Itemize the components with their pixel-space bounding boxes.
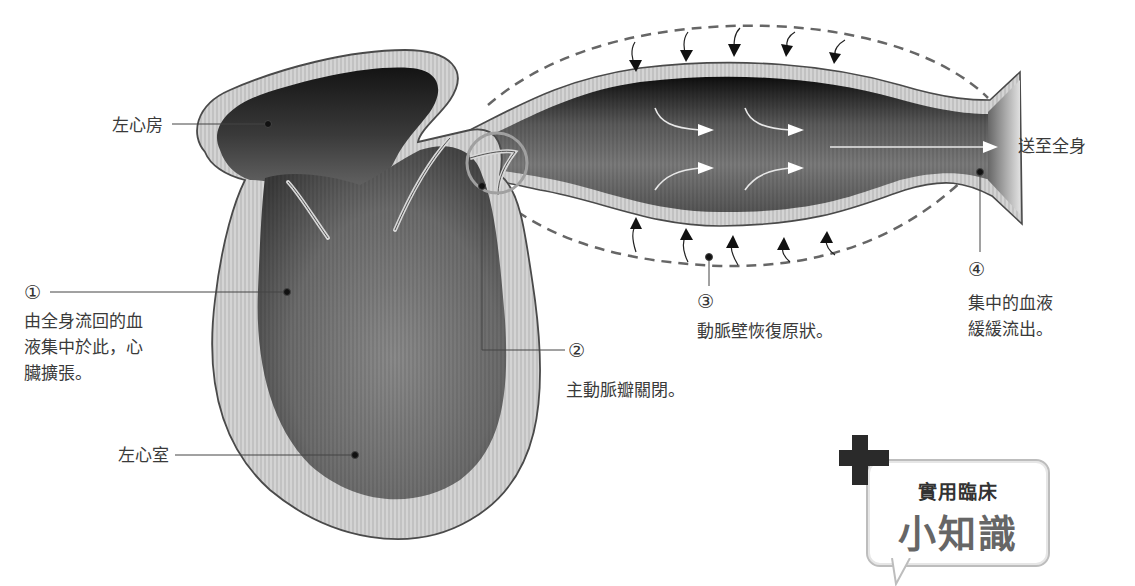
step-2-number: ②	[568, 339, 585, 361]
left-atrium-label: 左心房	[112, 112, 163, 138]
callout-big-title: 小知識	[868, 503, 1048, 558]
callout-bubble: 實用臨床 小知識	[866, 459, 1050, 567]
step-1-text: 由全身流回的血 液集中於此，心 臟擴張。	[24, 308, 143, 386]
callout-tail	[890, 558, 914, 586]
step-3-text: 動脈壁恢復原狀。	[697, 318, 833, 344]
callout-small-title: 實用臨床	[868, 477, 1048, 504]
step-4-text: 集中的血液 緩緩流出。	[968, 290, 1053, 342]
step-4-number: ④	[968, 258, 985, 280]
plus-cross-icon-bar	[839, 450, 889, 466]
step-2-text: 主動脈瓣關閉。	[566, 377, 685, 403]
left-ventricle-label: 左心室	[118, 442, 169, 468]
step-1-number: ①	[24, 281, 41, 303]
to-body-label: 送至全身	[1018, 133, 1086, 159]
step-3-number: ③	[697, 290, 714, 312]
